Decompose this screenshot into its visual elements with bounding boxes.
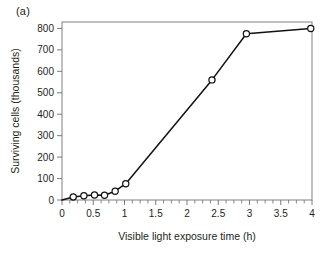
data-series bbox=[62, 28, 311, 200]
x-tick-label: 0 bbox=[59, 208, 65, 219]
x-tick-label: 3.5 bbox=[274, 208, 288, 219]
x-tick-label: 0.5 bbox=[86, 208, 100, 219]
data-point-marker bbox=[123, 181, 129, 187]
x-tick-label: 4 bbox=[309, 208, 315, 219]
y-tick-label: 300 bbox=[37, 130, 54, 141]
data-point-marker bbox=[91, 192, 97, 198]
y-tick-label: 600 bbox=[37, 66, 54, 77]
x-tick-label: 1 bbox=[122, 208, 128, 219]
figure-panel-a: (a) 00.511.522.533.54 010020030040050060… bbox=[0, 0, 329, 257]
y-tick-label: 500 bbox=[37, 87, 54, 98]
data-point-marker bbox=[243, 31, 249, 37]
x-tick-label: 2 bbox=[184, 208, 190, 219]
y-tick-label: 200 bbox=[37, 152, 54, 163]
x-tick-label: 1.5 bbox=[149, 208, 163, 219]
y-axis-ticks bbox=[57, 28, 62, 200]
chart-plot-area: 00.511.522.533.54 0100200300400500600700… bbox=[0, 0, 329, 257]
y-axis-tick-labels: 0100200300400500600700800 bbox=[37, 23, 54, 206]
data-point-marker bbox=[81, 193, 87, 199]
x-axis-ticks bbox=[62, 200, 312, 205]
y-tick-label: 400 bbox=[37, 109, 54, 120]
y-tick-label: 700 bbox=[37, 44, 54, 55]
y-tick-label: 100 bbox=[37, 173, 54, 184]
x-tick-label: 3 bbox=[247, 208, 253, 219]
line-chart: 00.511.522.533.54 0100200300400500600700… bbox=[0, 0, 329, 257]
data-point-marker bbox=[209, 77, 215, 83]
data-point-marker bbox=[70, 194, 76, 200]
y-tick-label: 0 bbox=[48, 195, 54, 206]
y-axis-title: Surviving cells (thousands) bbox=[9, 48, 21, 173]
series-polyline bbox=[62, 28, 311, 200]
y-tick-label: 800 bbox=[37, 23, 54, 34]
data-markers bbox=[70, 25, 314, 200]
x-axis-title: Visible light exposure time (h) bbox=[118, 230, 256, 242]
x-axis-tick-labels: 00.511.522.533.54 bbox=[59, 208, 315, 219]
data-point-marker bbox=[308, 25, 314, 31]
x-tick-label: 2.5 bbox=[211, 208, 225, 219]
data-point-marker bbox=[112, 188, 118, 194]
data-point-marker bbox=[101, 192, 107, 198]
